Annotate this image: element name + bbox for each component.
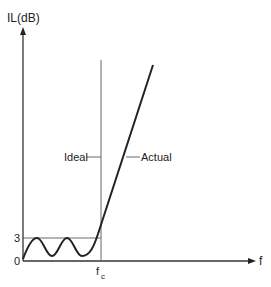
y-axis-arrow-icon [20, 27, 26, 35]
actual-label: Actual [141, 151, 172, 163]
insertion-loss-diagram: IL(dB) f 3 0 f c Ideal Actual [0, 0, 271, 287]
cutoff-subscript: c [101, 272, 105, 281]
tick-0-label: 0 [14, 255, 20, 267]
ideal-label: Ideal [64, 151, 88, 163]
y-axis-label: IL(dB) [7, 11, 40, 25]
tick-3-label: 3 [14, 232, 20, 244]
x-axis-arrow-icon [248, 258, 256, 264]
cutoff-label: f [96, 265, 100, 277]
actual-curve [23, 65, 153, 259]
x-axis-label: f [259, 254, 263, 268]
diagram-canvas: IL(dB) f 3 0 f c Ideal Actual [0, 0, 271, 287]
